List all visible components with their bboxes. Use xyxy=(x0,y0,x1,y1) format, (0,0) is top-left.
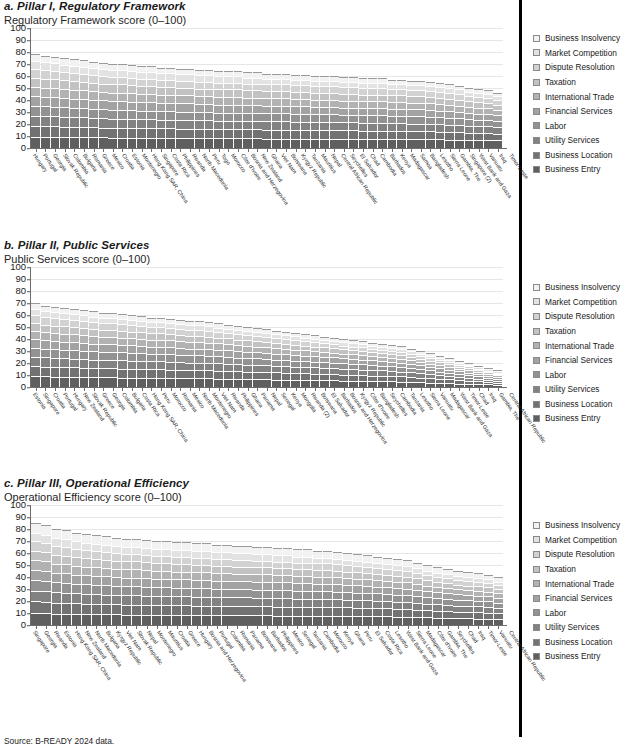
bar-stack[interactable] xyxy=(443,505,452,625)
bar-stack[interactable] xyxy=(41,267,50,387)
bar-stack[interactable] xyxy=(70,267,79,387)
legend-item-labor[interactable]: Labor xyxy=(533,606,627,621)
legend-item-business-entry[interactable]: Business Entry xyxy=(533,162,627,177)
legend-item-business-insolvency[interactable]: Business Insolvency xyxy=(533,280,627,295)
bar-stack[interactable] xyxy=(224,267,233,387)
bar-stack[interactable] xyxy=(293,505,302,625)
legend-item-market-competition[interactable]: Market Competition xyxy=(533,533,627,548)
bar-stack[interactable] xyxy=(484,505,493,625)
bar-stack[interactable] xyxy=(166,28,175,148)
bar-stack[interactable] xyxy=(242,505,251,625)
bar-stack[interactable] xyxy=(474,267,483,387)
bar-stack[interactable] xyxy=(166,267,175,387)
bar-stack[interactable] xyxy=(185,28,194,148)
bar-stack[interactable] xyxy=(60,267,69,387)
bar-stack[interactable] xyxy=(162,505,171,625)
bar-stack[interactable] xyxy=(349,267,358,387)
bar-stack[interactable] xyxy=(407,267,416,387)
bar-stack[interactable] xyxy=(243,28,252,148)
bar-stack[interactable] xyxy=(378,28,387,148)
legend-item-market-competition[interactable]: Market Competition xyxy=(533,46,627,61)
legend-item-labor[interactable]: Labor xyxy=(533,368,627,383)
bar-stack[interactable] xyxy=(31,28,40,148)
legend-item-utility-services[interactable]: Utility Services xyxy=(533,382,627,397)
bar-stack[interactable] xyxy=(343,505,352,625)
bar-stack[interactable] xyxy=(41,28,50,148)
bar-stack[interactable] xyxy=(320,267,329,387)
bar-stack[interactable] xyxy=(330,28,339,148)
bar-stack[interactable] xyxy=(122,505,131,625)
bar-stack[interactable] xyxy=(224,28,233,148)
bar-stack[interactable] xyxy=(463,505,472,625)
bar-stack[interactable] xyxy=(436,28,445,148)
bar-stack[interactable] xyxy=(383,505,392,625)
bar-stack[interactable] xyxy=(426,267,435,387)
bar-stack[interactable] xyxy=(330,267,339,387)
bar-stack[interactable] xyxy=(214,28,223,148)
bar-stack[interactable] xyxy=(283,505,292,625)
bar-stack[interactable] xyxy=(89,28,98,148)
bar-stack[interactable] xyxy=(339,28,348,148)
legend-item-taxation[interactable]: Taxation xyxy=(533,562,627,577)
bar-stack[interactable] xyxy=(311,267,320,387)
bar-stack[interactable] xyxy=(388,28,397,148)
bar-stack[interactable] xyxy=(423,505,432,625)
legend-item-taxation[interactable]: Taxation xyxy=(533,75,627,90)
bar-stack[interactable] xyxy=(403,505,412,625)
bar-stack[interactable] xyxy=(359,28,368,148)
bar-stack[interactable] xyxy=(465,28,474,148)
bar-stack[interactable] xyxy=(70,28,79,148)
bar-stack[interactable] xyxy=(416,28,425,148)
bar-stack[interactable] xyxy=(99,267,108,387)
bar-stack[interactable] xyxy=(80,28,89,148)
legend-item-labor[interactable]: Labor xyxy=(533,119,627,134)
bar-stack[interactable] xyxy=(102,505,111,625)
bar-stack[interactable] xyxy=(185,267,194,387)
legend-item-business-entry[interactable]: Business Entry xyxy=(533,411,627,426)
bar-stack[interactable] xyxy=(132,505,141,625)
bar-stack[interactable] xyxy=(311,28,320,148)
bar-stack[interactable] xyxy=(176,267,185,387)
legend-item-financial-services[interactable]: Financial Services xyxy=(533,104,627,119)
bar-stack[interactable] xyxy=(137,267,146,387)
bar-stack[interactable] xyxy=(301,267,310,387)
bar-stack[interactable] xyxy=(333,505,342,625)
bar-stack[interactable] xyxy=(313,505,322,625)
bar-stack[interactable] xyxy=(291,28,300,148)
bar-stack[interactable] xyxy=(137,28,146,148)
bar-stack[interactable] xyxy=(112,505,121,625)
bar-stack[interactable] xyxy=(436,267,445,387)
bar-stack[interactable] xyxy=(82,505,91,625)
bar-stack[interactable] xyxy=(426,28,435,148)
bar-stack[interactable] xyxy=(31,505,40,625)
legend-item-business-location[interactable]: Business Location xyxy=(533,148,627,163)
bar-stack[interactable] xyxy=(339,267,348,387)
bar-stack[interactable] xyxy=(445,28,454,148)
bar-stack[interactable] xyxy=(253,28,262,148)
bar-stack[interactable] xyxy=(282,28,291,148)
bar-stack[interactable] xyxy=(353,505,362,625)
bar-stack[interactable] xyxy=(108,28,117,148)
bar-stack[interactable] xyxy=(301,28,310,148)
bar-stack[interactable] xyxy=(474,505,483,625)
bar-stack[interactable] xyxy=(212,505,221,625)
bar-stack[interactable] xyxy=(320,28,329,148)
bar-stack[interactable] xyxy=(51,267,60,387)
bar-stack[interactable] xyxy=(118,267,127,387)
bar-stack[interactable] xyxy=(397,28,406,148)
bar-stack[interactable] xyxy=(272,28,281,148)
bar-stack[interactable] xyxy=(205,28,214,148)
bar-stack[interactable] xyxy=(253,267,262,387)
bar-stack[interactable] xyxy=(80,267,89,387)
bar-stack[interactable] xyxy=(453,505,462,625)
bar-stack[interactable] xyxy=(92,505,101,625)
legend-item-business-insolvency[interactable]: Business Insolvency xyxy=(533,518,627,533)
bar-stack[interactable] xyxy=(214,267,223,387)
legend-item-business-insolvency[interactable]: Business Insolvency xyxy=(533,31,627,46)
bar-stack[interactable] xyxy=(349,28,358,148)
bar-stack[interactable] xyxy=(323,505,332,625)
legend-item-business-location[interactable]: Business Location xyxy=(533,397,627,412)
bar-stack[interactable] xyxy=(368,28,377,148)
bar-stack[interactable] xyxy=(262,267,271,387)
legend-item-international-trade[interactable]: International Trade xyxy=(533,89,627,104)
